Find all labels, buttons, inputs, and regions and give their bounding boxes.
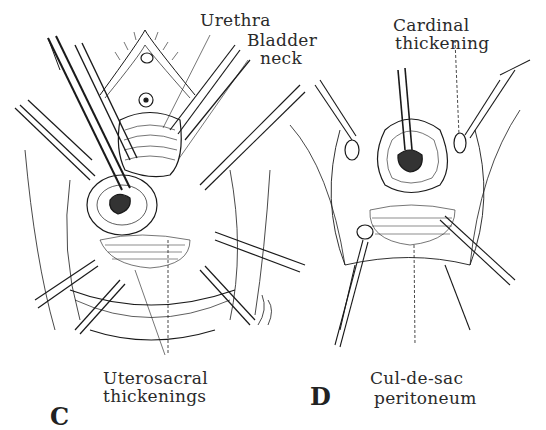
label-culdesac-line2: peritoneum	[374, 390, 477, 407]
panel-c-drawing	[15, 30, 305, 355]
panel-letter-d: D	[310, 382, 331, 411]
label-cardinal-line1: Cardinal	[393, 17, 470, 34]
label-uterosacral-line2: thickenings	[103, 388, 206, 405]
panel-d-drawing	[290, 40, 530, 347]
label-uterosacral-line1: Uterosacral	[103, 370, 208, 387]
label-urethra: Urethra	[200, 12, 271, 29]
panel-letter-c: C	[50, 402, 69, 430]
label-culdesac-line1: Cul-de-sac	[370, 370, 463, 387]
label-bladder-neck-line2: neck	[260, 50, 302, 67]
label-bladder-neck-line1: Bladder	[247, 32, 317, 49]
label-cardinal-line2: thickening	[395, 35, 489, 52]
